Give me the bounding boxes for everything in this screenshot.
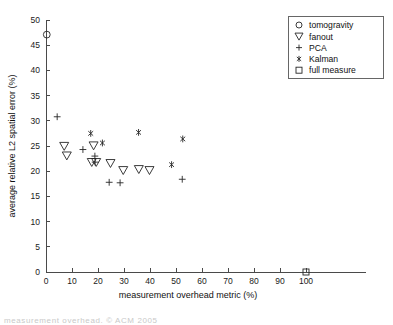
data-point xyxy=(169,161,174,168)
series-tomogravity xyxy=(43,31,50,38)
y-tick-label: 35 xyxy=(31,91,41,101)
series-fanout xyxy=(60,142,154,175)
data-point xyxy=(43,31,50,38)
data-point xyxy=(134,166,143,174)
data-point xyxy=(62,152,71,160)
y-tick-label: 5 xyxy=(35,242,40,252)
x-tick-label: 80 xyxy=(249,276,259,286)
data-point xyxy=(180,136,185,143)
y-tick-label: 45 xyxy=(31,40,41,50)
x-tick-label: 70 xyxy=(223,276,233,286)
x-tick-label: 20 xyxy=(93,276,103,286)
legend-label: fanout xyxy=(309,32,334,42)
x-tick-label: 10 xyxy=(67,276,77,286)
data-point xyxy=(100,140,105,147)
data-point xyxy=(60,142,69,150)
y-tick-label: 30 xyxy=(31,116,41,126)
x-axis-title: measurement overhead metric (%) xyxy=(119,290,258,300)
y-tick-label: 20 xyxy=(31,166,41,176)
series-PCA xyxy=(54,113,186,186)
legend-label: PCA xyxy=(309,43,327,53)
data-point xyxy=(119,167,128,175)
data-point xyxy=(88,130,93,137)
plot-legend: tomogravityfanoutPCAKalmanfull measure xyxy=(288,16,383,78)
legend-label: tomogravity xyxy=(309,20,354,30)
y-tick-label: 0 xyxy=(35,267,40,277)
data-point xyxy=(136,129,141,136)
footer-caption: measurement overhead. © ACM 2005 xyxy=(4,316,158,325)
data-point xyxy=(145,167,154,175)
legend-label: full measure xyxy=(309,65,356,75)
data-point xyxy=(80,146,87,153)
data-point xyxy=(179,176,186,183)
x-tick-label: 30 xyxy=(119,276,129,286)
x-tick-label: 40 xyxy=(145,276,155,286)
y-tick-label: 15 xyxy=(31,191,41,201)
data-point xyxy=(106,160,115,168)
x-tick-label: 50 xyxy=(171,276,181,286)
y-axis-title: average relative L2 spatial error (%) xyxy=(7,74,17,217)
data-point xyxy=(54,113,61,120)
legend-label: Kalman xyxy=(309,54,338,64)
data-point xyxy=(106,179,113,186)
x-tick-label: 60 xyxy=(197,276,207,286)
data-point xyxy=(117,179,124,186)
x-tick-label: 100 xyxy=(299,276,313,286)
data-points xyxy=(43,31,309,275)
data-point xyxy=(89,142,98,150)
series-Kalman xyxy=(88,129,185,168)
y-tick-label: 40 xyxy=(31,65,41,75)
x-tick-label: 0 xyxy=(44,276,49,286)
y-tick-label: 10 xyxy=(31,217,41,227)
y-tick-label: 50 xyxy=(31,15,41,25)
y-tick-label: 25 xyxy=(31,141,41,151)
x-tick-label: 90 xyxy=(275,276,285,286)
